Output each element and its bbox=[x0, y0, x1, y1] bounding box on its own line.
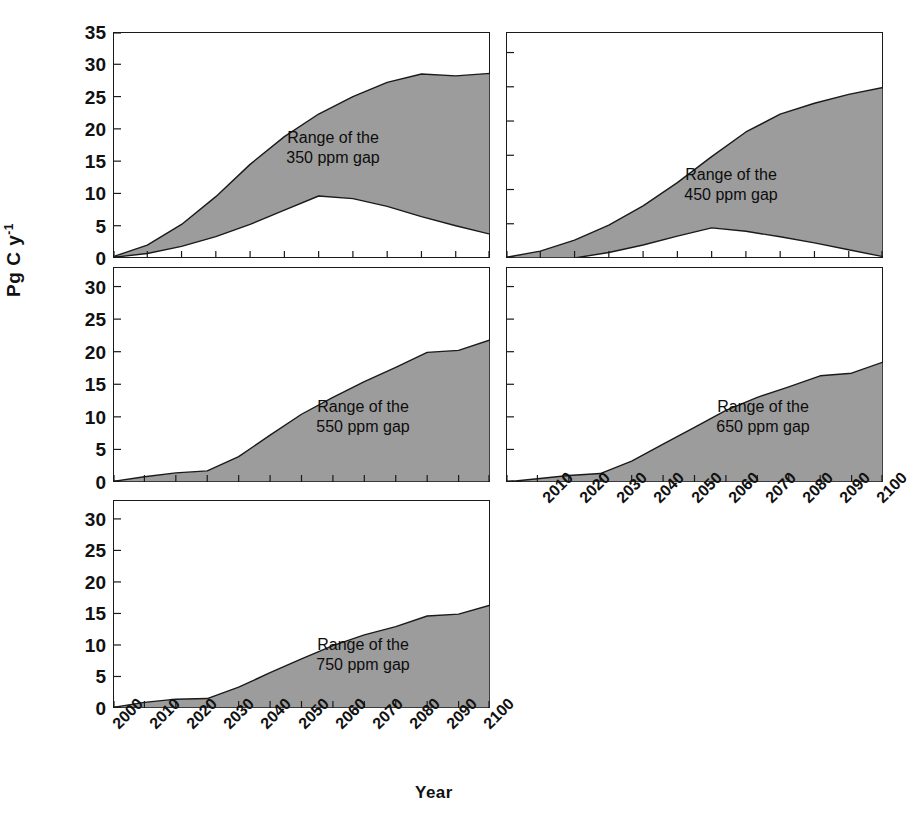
panel-750-y-tick-label: 5 bbox=[64, 667, 106, 686]
panel-550-annotation: Range of the 550 ppm gap bbox=[278, 397, 448, 437]
panel-550-y-ticks: 051015202530 bbox=[60, 267, 106, 482]
panel-550-y-tick-label: 10 bbox=[64, 408, 106, 427]
panel-350-y-tick-label: 10 bbox=[64, 184, 106, 203]
panel-550-ppm bbox=[113, 267, 490, 482]
panel-750-annotation: Range of the 750 ppm gap bbox=[278, 635, 448, 675]
panel-350-annotation-line2: 350 ppm gap bbox=[248, 148, 418, 168]
panel-350-y-tick-label: 35 bbox=[64, 23, 106, 42]
panel-650-annotation-line1: Range of the bbox=[678, 397, 848, 417]
x-axis-label: Year bbox=[415, 783, 453, 803]
panel-650-annotation: Range of the 650 ppm gap bbox=[678, 397, 848, 437]
panel-750-y-tick-label: 25 bbox=[64, 541, 106, 560]
right-column-x-tick-labels: 2010202020302040205020602070208020902100 bbox=[506, 490, 883, 560]
panel-750-y-tick-label: 20 bbox=[64, 573, 106, 592]
panel-450-ppm bbox=[506, 32, 883, 258]
y-axis-label-exponent: -1 bbox=[2, 223, 16, 235]
panel-450-annotation: Range of the 450 ppm gap bbox=[646, 165, 816, 205]
panel-650-annotation-line2: 650 ppm gap bbox=[678, 417, 848, 437]
panel-750-annotation-line2: 750 ppm gap bbox=[278, 655, 448, 675]
panel-750-ppm bbox=[113, 500, 490, 708]
panel-350-y-tick-label: 30 bbox=[64, 55, 106, 74]
y-axis-label-text: Pg C y bbox=[3, 235, 24, 297]
panel-350-y-tick-label: 0 bbox=[64, 249, 106, 268]
panel-350-annotation: Range of the 350 ppm gap bbox=[248, 128, 418, 168]
panel-350-y-tick-label: 5 bbox=[64, 217, 106, 236]
panel-350-y-ticks: 05101520253035 bbox=[60, 32, 106, 258]
panel-550-annotation-line1: Range of the bbox=[278, 397, 448, 417]
figure-canvas: Pg C y-1 Year 05101520253035 Range of th… bbox=[0, 0, 907, 830]
panel-550-plot bbox=[113, 267, 490, 482]
panel-550-y-tick-label: 20 bbox=[64, 343, 106, 362]
panel-450-annotation-line1: Range of the bbox=[646, 165, 816, 185]
panel-750-annotation-line1: Range of the bbox=[278, 635, 448, 655]
panel-550-y-tick-label: 0 bbox=[64, 473, 106, 492]
panel-550-y-tick-label: 5 bbox=[64, 440, 106, 459]
panel-750-y-tick-label: 15 bbox=[64, 604, 106, 623]
panel-750-y-ticks: 051015202530 bbox=[60, 500, 106, 708]
panel-450-plot bbox=[506, 32, 883, 258]
y-axis-label: Pg C y-1 bbox=[2, 160, 25, 360]
panel-450-annotation-line2: 450 ppm gap bbox=[646, 185, 816, 205]
panel-650-plot bbox=[506, 267, 883, 482]
panel-750-y-tick-label: 0 bbox=[64, 699, 106, 718]
panel-550-y-tick-label: 30 bbox=[64, 278, 106, 297]
panel-750-y-tick-label: 10 bbox=[64, 636, 106, 655]
panel-650-ppm bbox=[506, 267, 883, 482]
panel-350-annotation-line1: Range of the bbox=[248, 128, 418, 148]
panel-750-plot bbox=[113, 500, 490, 708]
panel-550-y-tick-label: 15 bbox=[64, 375, 106, 394]
panel-350-y-tick-label: 25 bbox=[64, 88, 106, 107]
panel-550-annotation-line2: 550 ppm gap bbox=[278, 417, 448, 437]
panel-350-y-tick-label: 15 bbox=[64, 152, 106, 171]
panel-350-y-tick-label: 20 bbox=[64, 120, 106, 139]
left-column-x-tick-labels: 2000201020202030204020502060207020802090… bbox=[113, 716, 490, 786]
panel-750-y-tick-label: 30 bbox=[64, 510, 106, 529]
panel-550-y-tick-label: 25 bbox=[64, 310, 106, 329]
